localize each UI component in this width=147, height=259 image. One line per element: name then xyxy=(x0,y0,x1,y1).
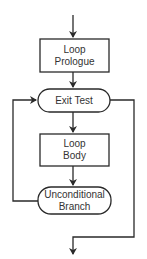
unconditional-branch-node: Unconditional Branch xyxy=(38,187,111,214)
loop-prologue-label-1: Loop xyxy=(63,44,86,55)
exit-test-node: Exit Test xyxy=(38,89,110,112)
loop-body-label-2: Body xyxy=(63,150,86,161)
loop-prologue-label-2: Prologue xyxy=(54,56,94,67)
flowchart: Loop Prologue Exit Test Loop Body Uncond… xyxy=(0,0,147,259)
branch-label-1: Unconditional xyxy=(44,189,105,200)
exit-path-arrow xyxy=(73,100,134,254)
exit-test-label: Exit Test xyxy=(55,95,93,106)
loop-body-node: Loop Body xyxy=(40,134,109,166)
loop-prologue-node: Loop Prologue xyxy=(40,39,109,72)
loop-back-arrow xyxy=(13,100,38,201)
branch-label-2: Branch xyxy=(59,201,91,212)
loop-body-label-1: Loop xyxy=(63,138,86,149)
